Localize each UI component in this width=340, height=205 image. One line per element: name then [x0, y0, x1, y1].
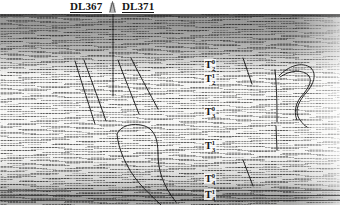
interpretation-overlay — [0, 14, 340, 205]
horizon-label-t3-1: T13 — [204, 140, 216, 151]
horizon-label-t2-0: T02 — [204, 59, 216, 70]
horizon-label-t4-1: T14 — [204, 189, 216, 200]
fault-trace-f8 — [243, 160, 253, 186]
fault-trace-f1 — [75, 61, 95, 124]
horizon-label-t3-0: T03 — [204, 106, 216, 117]
well-label-dl367: DL367 — [70, 0, 102, 13]
well-label-header: DL367 DL371 — [0, 0, 340, 14]
fault-trace-f2 — [84, 60, 106, 121]
seismic-panel: T02 T12 T03 T13 T04 T14 — [0, 14, 340, 205]
horizon-label-t2-1: T12 — [204, 73, 216, 84]
fault-trace-f7 — [276, 126, 277, 150]
closure-anticline-loop-inner — [117, 134, 161, 205]
derrick-icon — [108, 1, 117, 13]
closure-hook-inner — [280, 71, 310, 120]
fault-trace-f5 — [243, 58, 252, 84]
seismic-section-figure: DL367 DL371 — [0, 0, 340, 205]
fault-trace-f4 — [131, 58, 158, 109]
well-label-dl371: DL371 — [122, 0, 154, 13]
fault-trace-f6 — [275, 70, 277, 122]
horizon-label-t4-0: T04 — [204, 173, 216, 184]
